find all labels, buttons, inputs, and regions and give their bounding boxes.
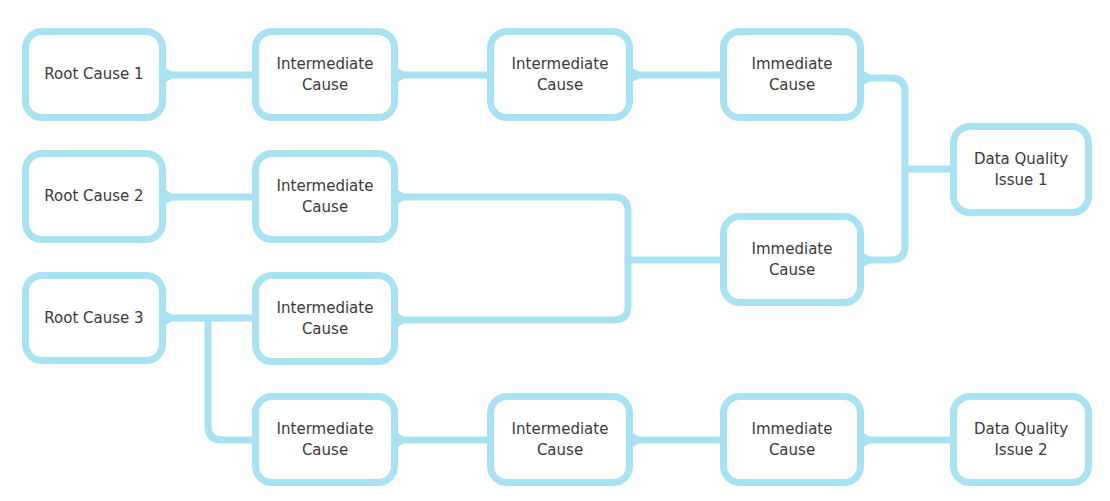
- node-intermediate-cause: Intermediate Cause: [487, 393, 633, 486]
- node-root-cause-2: Root Cause 2: [22, 150, 166, 243]
- node-root-cause-1: Root Cause 1: [22, 28, 166, 121]
- node-data-quality-issue-2: Data Quality Issue 2: [950, 393, 1092, 486]
- arrow-ic4-rc3: [208, 318, 252, 440]
- arrow-dq1-im2: [870, 169, 905, 260]
- node-immediate-cause: Immediate Cause: [720, 213, 864, 306]
- arrow-dq1-im1: [870, 78, 950, 169]
- node-immediate-cause: Immediate Cause: [720, 393, 864, 486]
- node-intermediate-cause: Intermediate Cause: [252, 150, 398, 243]
- arrow-im2-ic2: [404, 197, 720, 260]
- node-intermediate-cause: Intermediate Cause: [252, 393, 398, 486]
- root-cause-diagram: Root Cause 1 Root Cause 2 Root Cause 3 I…: [0, 0, 1110, 501]
- node-intermediate-cause: Intermediate Cause: [487, 28, 633, 121]
- node-root-cause-3: Root Cause 3: [22, 272, 166, 364]
- node-intermediate-cause: Intermediate Cause: [252, 272, 398, 365]
- node-intermediate-cause: Intermediate Cause: [252, 28, 398, 121]
- node-data-quality-issue-1: Data Quality Issue 1: [950, 123, 1092, 216]
- node-immediate-cause: Immediate Cause: [720, 28, 864, 121]
- arrow-im2-ic3: [404, 260, 628, 320]
